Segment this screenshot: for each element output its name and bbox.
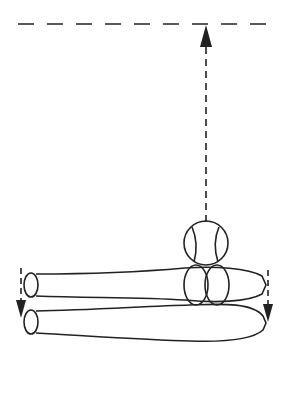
upper-baseball [184, 221, 228, 265]
bat-ball-diagram [0, 0, 286, 393]
launch-arrow-up [200, 25, 212, 222]
right-drop-arrow [263, 270, 273, 322]
left-drop-arrow [16, 268, 26, 318]
lower-bat [24, 304, 266, 341]
